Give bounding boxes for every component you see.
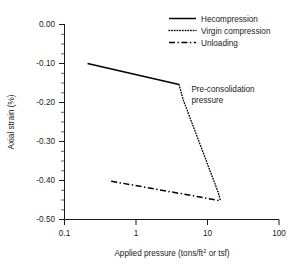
legend-label-unloading: Unloading [201, 39, 238, 48]
annotation-line-1: Pre-consolidation [191, 85, 255, 94]
x-axis-tick-labels: 0.1 1 10 100 [59, 229, 286, 238]
y-tick-label: -0.10 [36, 59, 55, 68]
y-tick-label: -0.30 [36, 137, 55, 146]
consolidation-chart-figure: 0.00 -0.10 -0.20 -0.30 -0.40 -0.50 0.1 1… [0, 0, 301, 267]
pre-consolidation-annotation: Pre-consolidation pressure [191, 85, 255, 105]
x-tick-label: 100 [272, 229, 286, 238]
annotation-line-2: pressure [191, 96, 223, 105]
y-tick-label: -0.50 [36, 215, 55, 224]
chart-canvas: 0.00 -0.10 -0.20 -0.30 -0.40 -0.50 0.1 1… [0, 0, 301, 267]
legend-item-virgin-compression: Virgin compression [169, 27, 271, 36]
x-tick-label: 10 [203, 229, 213, 238]
y-axis-title: Axial strain (%) [7, 94, 16, 149]
x-axis-title-tail: or tsf) [206, 249, 229, 258]
data-series-group [88, 63, 221, 200]
legend-item-unloading: Unloading [169, 39, 238, 48]
x-tick-label: 1 [134, 229, 139, 238]
y-tick-label: 0.00 [39, 20, 55, 29]
legend-label-recompression: Hecompression [201, 15, 258, 24]
axis-lines [65, 24, 280, 220]
legend-label-virgin-compression: Virgin compression [201, 27, 271, 36]
chart-legend: Hecompression Virgin compression Unloadi… [169, 15, 271, 48]
legend-item-recompression: Hecompression [169, 15, 258, 24]
x-axis-title-main: Applied pressure (tons/ft [114, 249, 203, 258]
y-axis-minor-ticks [61, 34, 65, 210]
y-axis-tick-labels: 0.00 -0.10 -0.20 -0.30 -0.40 -0.50 [36, 20, 55, 224]
y-tick-label: -0.20 [36, 98, 55, 107]
x-tick-label: 0.1 [59, 229, 71, 238]
recompression-curve [88, 63, 180, 84]
x-axis-title: Applied pressure (tons/ft2 or tsf) [114, 248, 229, 258]
y-tick-label: -0.40 [36, 176, 55, 185]
unloading-curve [111, 181, 220, 201]
x-axis-major-ticks [65, 220, 280, 226]
